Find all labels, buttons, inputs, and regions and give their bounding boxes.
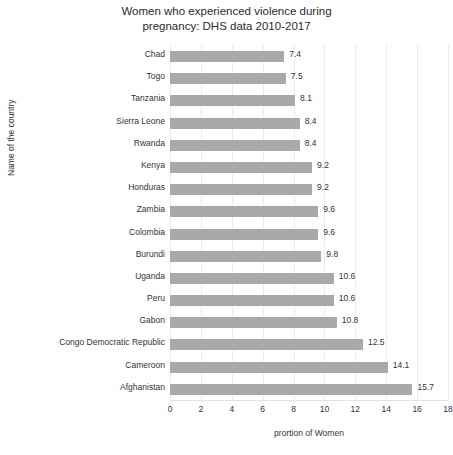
bar-row[interactable]: Rwanda8.4 <box>0 134 453 156</box>
bar-row[interactable]: Sierra Leone8.4 <box>0 112 453 134</box>
x-axis-line <box>170 400 448 401</box>
x-tick-14: 14 <box>371 404 401 414</box>
category-label: Congo Democratic Republic <box>59 337 165 347</box>
bar-value-label: 15.7 <box>417 382 434 392</box>
bar-value-label: 10.6 <box>339 271 356 281</box>
bar-row[interactable]: Kenya9.2 <box>0 156 453 178</box>
bar-row[interactable]: Tanzania8.1 <box>0 89 453 111</box>
bar[interactable] <box>170 184 312 195</box>
x-axis-title: prortion of Women <box>170 428 448 438</box>
category-label: Zambia <box>137 204 165 214</box>
chart-title: Women who experienced violence during pr… <box>0 4 453 34</box>
x-tick-12: 12 <box>340 404 370 414</box>
bar[interactable] <box>170 162 312 173</box>
category-label: Rwanda <box>134 138 165 148</box>
bar-value-label: 10.8 <box>342 315 359 325</box>
bar[interactable] <box>170 317 337 328</box>
bar[interactable] <box>170 273 334 284</box>
bar-row[interactable]: Peru10.6 <box>0 289 453 311</box>
bar-value-label: 9.2 <box>317 182 329 192</box>
x-tick-2: 2 <box>186 404 216 414</box>
bar[interactable] <box>170 140 300 151</box>
bar-value-label: 9.6 <box>323 227 335 237</box>
bar-value-label: 8.1 <box>300 93 312 103</box>
category-label: Sierra Leone <box>116 116 165 126</box>
x-tick-4: 4 <box>217 404 247 414</box>
bar-row[interactable]: Honduras9.2 <box>0 178 453 200</box>
bar-row[interactable]: Cameroon14.1 <box>0 356 453 378</box>
category-label: Kenya <box>141 160 165 170</box>
x-tick-16: 16 <box>402 404 432 414</box>
bar[interactable] <box>170 73 286 84</box>
bar-value-label: 9.2 <box>317 160 329 170</box>
category-label: Afghanistan <box>120 382 165 392</box>
bar-row[interactable]: Chad7.4 <box>0 45 453 67</box>
bar-value-label: 7.5 <box>291 71 303 81</box>
x-tick-18: 18 <box>433 404 453 414</box>
bar-value-label: 7.4 <box>289 49 301 59</box>
x-tick-10: 10 <box>309 404 339 414</box>
bar-value-label: 12.5 <box>368 337 385 347</box>
bar-row[interactable]: Afghanistan15.7 <box>0 378 453 400</box>
category-label: Peru <box>147 293 165 303</box>
x-tick-8: 8 <box>279 404 309 414</box>
category-label: Tanzania <box>131 93 165 103</box>
category-label: Cameroon <box>125 360 165 370</box>
bar[interactable] <box>170 362 388 373</box>
chart-figure: Women who experienced violence during pr… <box>0 0 453 455</box>
bar-value-label: 8.4 <box>305 138 317 148</box>
bar-value-label: 9.6 <box>323 204 335 214</box>
bar-value-label: 9.8 <box>326 249 338 259</box>
category-label: Chad <box>145 49 165 59</box>
bar[interactable] <box>170 206 318 217</box>
bar-row[interactable]: Zambia9.6 <box>0 200 453 222</box>
x-tick-0: 0 <box>155 404 185 414</box>
category-label: Gabon <box>139 315 165 325</box>
bar-row[interactable]: Congo Democratic Republic12.5 <box>0 333 453 355</box>
bar-value-label: 8.4 <box>305 116 317 126</box>
bar-row[interactable]: Colombia9.6 <box>0 223 453 245</box>
bar-value-label: 10.6 <box>339 293 356 303</box>
bar[interactable] <box>170 95 295 106</box>
bar-row[interactable]: Burundi9.8 <box>0 245 453 267</box>
bar[interactable] <box>170 339 363 350</box>
category-label: Burundi <box>136 249 165 259</box>
category-label: Honduras <box>128 182 165 192</box>
category-label: Colombia <box>129 227 165 237</box>
bar-row[interactable]: Uganda10.6 <box>0 267 453 289</box>
bar[interactable] <box>170 251 321 262</box>
x-tick-6: 6 <box>248 404 278 414</box>
category-label: Togo <box>147 71 165 81</box>
clipped-footer-text <box>0 447 453 455</box>
bar[interactable] <box>170 229 318 240</box>
bar[interactable] <box>170 384 412 395</box>
bar[interactable] <box>170 118 300 129</box>
bar[interactable] <box>170 295 334 306</box>
bar-value-label: 14.1 <box>393 360 410 370</box>
bar-row[interactable]: Gabon10.8 <box>0 311 453 333</box>
bar-row[interactable]: Togo7.5 <box>0 67 453 89</box>
bar[interactable] <box>170 51 284 62</box>
category-label: Uganda <box>135 271 165 281</box>
